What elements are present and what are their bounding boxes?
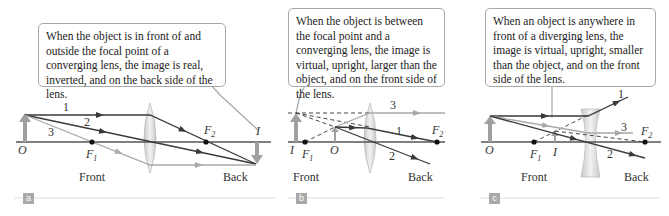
- f2-label: F2: [204, 123, 215, 139]
- object-label: O: [18, 143, 27, 158]
- panel-c-badge: c: [489, 193, 500, 204]
- object-label: O: [485, 143, 494, 158]
- ray-1: [490, 97, 628, 116]
- caption-panel-a: When the object is in front of and outsi…: [38, 23, 226, 87]
- image-label: I: [256, 124, 260, 139]
- ray-3-label: 3: [621, 120, 627, 135]
- f1-label: F1: [530, 147, 541, 163]
- caption-panel-c: When an object is anywhere in front of a…: [485, 8, 656, 87]
- back-label: Back: [223, 170, 248, 185]
- ray-3: [490, 116, 633, 133]
- ray-2-label: 2: [389, 149, 395, 164]
- f2-label: F2: [432, 123, 443, 139]
- ray-1: [335, 127, 437, 142]
- ray-3-label: 3: [48, 125, 54, 140]
- front-label: Front: [293, 170, 319, 185]
- ray-2-label: 2: [84, 115, 90, 130]
- focal-point-f1: [89, 139, 94, 144]
- ray-3-label: 3: [390, 98, 396, 113]
- focal-point-f2: [434, 139, 439, 144]
- callout-pointer: [212, 86, 258, 130]
- focal-point-f1: [531, 139, 536, 144]
- panel-b-badge: b: [296, 193, 307, 204]
- converging-lens: [144, 103, 156, 173]
- ray-2: [335, 127, 430, 164]
- ray-1-label: 1: [396, 124, 402, 139]
- focal-point-f1: [302, 139, 307, 144]
- caption-panel-b: When the object is between the focal poi…: [288, 8, 445, 87]
- ray-1-label: 1: [63, 100, 69, 115]
- image-label: I: [290, 143, 294, 158]
- front-label: Front: [521, 170, 547, 185]
- panel-a-badge: a: [23, 193, 34, 204]
- f2-label: F2: [641, 124, 652, 140]
- ray-3: [335, 113, 445, 127]
- object-label: O: [330, 143, 339, 158]
- front-label: Front: [79, 170, 105, 185]
- f1-label: F1: [302, 147, 313, 163]
- image-label: I: [553, 145, 557, 160]
- back-label: Back: [408, 170, 433, 185]
- ray-2: [25, 115, 256, 164]
- back-label: Back: [624, 170, 649, 185]
- ray-2-label: 2: [607, 147, 613, 162]
- ray-1-label: 1: [618, 87, 624, 102]
- f1-label: F1: [86, 147, 97, 163]
- focal-point-f2: [203, 139, 208, 144]
